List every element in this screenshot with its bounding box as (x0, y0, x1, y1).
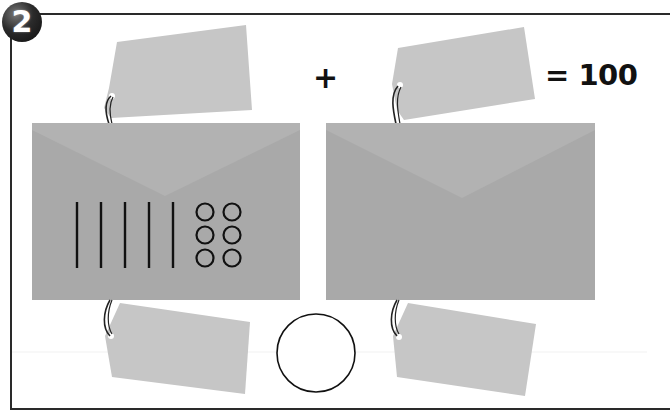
answer-circle[interactable] (277, 314, 355, 392)
tag-top-right (392, 27, 535, 124)
envelope-right (326, 123, 595, 300)
plus-sign: + (313, 60, 338, 95)
tag-bottom-right (391, 300, 536, 396)
tag-bottom-left (104, 300, 250, 394)
tag-top-left (104, 25, 252, 124)
envelope-left (32, 123, 300, 300)
equation-result: = 100 (545, 58, 637, 92)
